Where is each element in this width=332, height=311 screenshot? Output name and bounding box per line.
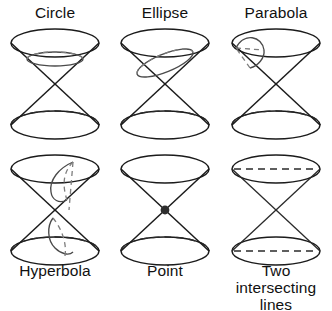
cone-diagram-ellipse [110,26,220,142]
panel-point: Point [110,150,220,311]
panel-two-intersecting-lines: Two intersecting lines [220,150,332,311]
panel-label-ellipse: Ellipse [110,4,220,21]
cone-diagram-parabola [220,26,332,142]
panel-hyperbola: Hyperbola [0,150,110,311]
cone-diagram-circle [0,26,110,142]
panel-label-circle: Circle [0,4,110,21]
conic-panel-grid: Circle Ellipse [0,0,332,311]
panel-label-hyperbola: Hyperbola [0,262,110,279]
panel-parabola: Parabola [220,0,332,150]
panel-label-two-intersecting-lines: Two intersecting lines [220,262,332,311]
conic-sections-figure: Circle Ellipse [0,0,332,311]
panel-label-parabola: Parabola [220,4,332,21]
panel-circle: Circle [0,0,110,150]
panel-ellipse: Ellipse [110,0,220,150]
cone-diagram-two-lines [220,152,332,268]
panel-label-point: Point [110,262,220,279]
apex-point-marker [161,206,170,215]
cone-diagram-hyperbola [0,152,110,268]
cone-diagram-point [110,152,220,268]
